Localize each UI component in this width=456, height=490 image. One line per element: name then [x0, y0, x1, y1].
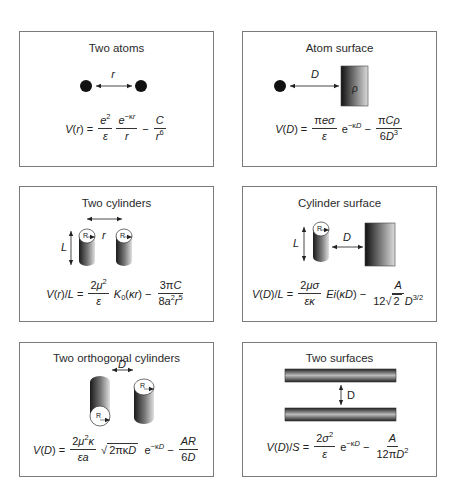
- surface-block: [365, 223, 395, 266]
- equation: V(r) = e2ε e−κrr − Cr6: [20, 114, 213, 143]
- cylinder: R: [313, 222, 329, 262]
- distance-label: D: [347, 389, 355, 401]
- equation: V(D)/L = 2μσεκ Ei(κD) − A12√2 D3/2: [243, 279, 436, 308]
- density-label: ρ: [351, 83, 358, 94]
- surface-top: [285, 369, 396, 382]
- svg-text:R: R: [96, 412, 101, 419]
- surface-bottom: [285, 408, 396, 421]
- cylinder-right-vertical: R: [134, 379, 154, 424]
- distance-label: D: [118, 358, 126, 370]
- distance-label: D: [311, 68, 319, 80]
- cylinder-right: R: [116, 229, 132, 266]
- panel-atom-surface: Atom surface D ρ V(D) = πeσε e−κD − πCρ6…: [242, 31, 437, 167]
- distance-label: D: [343, 231, 351, 243]
- panel-two-cylinders: Two cylinders L R r R V(r)/L = 2μ2ε K0(κ…: [19, 186, 214, 322]
- svg-text:R: R: [120, 232, 125, 239]
- svg-text:R: R: [83, 232, 88, 239]
- panel-two-atoms: Two atoms r V(r) = e2ε e−κrr − Cr6: [19, 31, 214, 167]
- panel-cylinder-surface: Cylinder surface L R D V(D)/L = 2μσεκ Ei…: [242, 186, 437, 322]
- equation: V(D) = 2μ2κεa √2πκD e−κD − AR6D: [20, 435, 213, 464]
- distance-label: r: [111, 68, 116, 80]
- svg-text:R: R: [317, 225, 322, 232]
- atom-surface-diagram: D ρ: [243, 32, 438, 168]
- atom-left: [80, 80, 92, 92]
- atom-right: [135, 80, 147, 92]
- atom: [274, 80, 286, 92]
- length-label: L: [61, 241, 67, 253]
- cylinder-left-horizontal: R: [90, 376, 110, 426]
- distance-label: r: [102, 229, 107, 241]
- panel-two-orthogonal-cylinders: Two orthogonal cylinders D R R V(D) = 2μ…: [19, 342, 214, 477]
- two-atoms-diagram: r: [20, 32, 215, 168]
- equation: V(D)/S = 2σ2ε e−κD − A12πD2: [243, 432, 436, 461]
- cylinder-left: R: [79, 229, 95, 266]
- panel-two-surfaces: Two surfaces D V(D)/S = 2σ2ε e−κD − A12π…: [242, 342, 437, 477]
- equation: V(r)/L = 2μ2ε K0(κr) − 3πC8a2r5: [20, 279, 213, 308]
- equation: V(D) = πeσε e−κD − πCρ6D3: [243, 114, 436, 143]
- length-label: L: [293, 237, 299, 249]
- svg-text:R: R: [140, 382, 145, 389]
